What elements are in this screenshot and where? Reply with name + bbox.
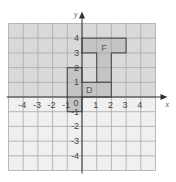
- y-tick-label: 3: [74, 48, 79, 58]
- x-tick-label: 4: [137, 100, 142, 110]
- shape-label-d: D: [86, 85, 93, 95]
- x-tick-label: 3: [123, 100, 128, 110]
- x-tick-label: 1: [93, 100, 98, 110]
- y-tick-label: 1: [74, 77, 79, 87]
- y-tick-label: 2: [74, 63, 79, 73]
- y-axis-arrow-icon: [79, 12, 85, 19]
- origin-label: 0: [73, 98, 78, 108]
- y-tick-label: 4: [74, 33, 79, 43]
- x-tick-label: -1: [62, 100, 70, 110]
- x-tick-label: -2: [48, 100, 56, 110]
- y-tick-label: -4: [71, 151, 79, 161]
- y-tick-label: -3: [71, 136, 79, 146]
- x-tick-label: -3: [33, 100, 41, 110]
- y-axis-label: y: [73, 10, 78, 19]
- y-tick-label: -2: [71, 121, 79, 131]
- x-tick-label: 2: [108, 100, 113, 110]
- x-tick-label: -4: [18, 100, 26, 110]
- x-axis-label: x: [165, 100, 170, 109]
- coordinate-grid: xy-4-3-2-112344321-1-2-3-40FD: [0, 0, 176, 182]
- y-tick-label: -1: [71, 107, 79, 117]
- shape-label-f: F: [101, 43, 107, 53]
